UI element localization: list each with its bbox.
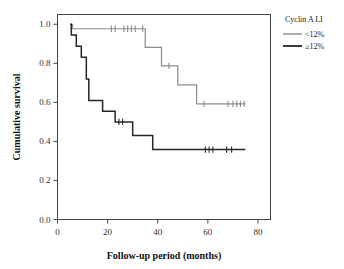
legend-label-1: ≥12%: [305, 42, 324, 51]
x-tick-label: 60: [203, 227, 213, 237]
y-tick-label: 0.8: [39, 58, 51, 68]
x-axis-title: Follow-up period (months): [107, 250, 221, 262]
figure-background: [0, 0, 344, 269]
survival-chart-figure: 0.00.20.40.60.81.0 020406080 Follow-up p…: [0, 0, 344, 269]
y-tick-label: 0.6: [39, 97, 51, 107]
x-tick-label: 40: [153, 227, 163, 237]
kaplan-meier-plot: 0.00.20.40.60.81.0 020406080 Follow-up p…: [0, 0, 344, 269]
x-tick-label: 20: [103, 227, 113, 237]
x-tick-label: 80: [253, 227, 263, 237]
x-tick-label: 0: [55, 227, 60, 237]
legend-label-0: <12%: [305, 30, 325, 39]
y-tick-label: 0.4: [39, 136, 51, 146]
y-tick-label: 1.0: [39, 19, 51, 29]
y-tick-label: 0.2: [39, 175, 50, 185]
y-axis-title: Cumulative survival: [11, 73, 22, 160]
y-tick-label: 0.0: [39, 215, 51, 225]
legend-title: Cyclin A LI: [285, 15, 323, 24]
